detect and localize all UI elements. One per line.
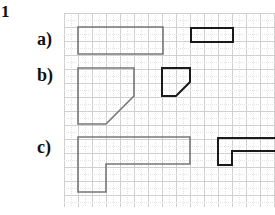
grid-lines (64, 13, 275, 207)
grid-diagram (0, 0, 275, 215)
